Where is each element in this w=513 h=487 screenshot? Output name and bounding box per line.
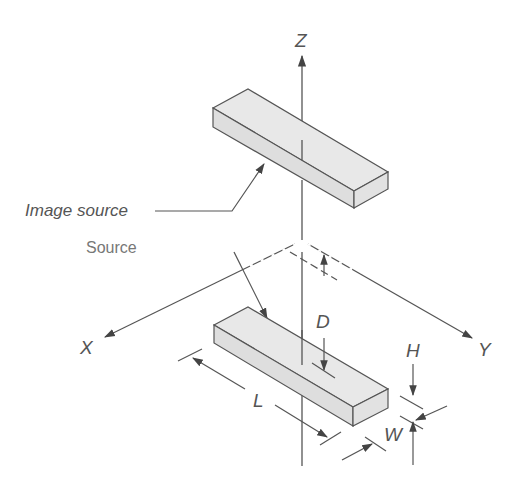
image-source-box bbox=[213, 89, 388, 208]
ground-plane-lines bbox=[105, 244, 472, 338]
distance-label: D bbox=[316, 311, 330, 332]
x-axis-label: X bbox=[79, 337, 94, 358]
source-label: Source bbox=[86, 239, 137, 256]
image-source-label: Image source bbox=[25, 201, 128, 220]
source-box bbox=[214, 307, 388, 426]
height-label: H bbox=[406, 340, 420, 361]
height-dimension bbox=[400, 364, 423, 465]
y-axis-label: Y bbox=[478, 339, 492, 360]
z-axis-label: Z bbox=[294, 30, 308, 51]
width-label: W bbox=[384, 424, 404, 445]
length-label: L bbox=[253, 390, 264, 411]
diagram-canvas: Z X Y Image source Source D L H W bbox=[0, 0, 513, 487]
image-source-leader bbox=[155, 164, 264, 211]
